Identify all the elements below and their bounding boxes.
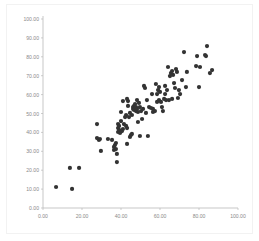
- data-point: [204, 54, 208, 58]
- data-point: [160, 105, 164, 109]
- scatter-plot-screenshot: 0.0010.0020.0030.0040.0050.0060.0070.008…: [0, 0, 259, 241]
- data-point: [126, 104, 130, 108]
- data-point: [170, 97, 174, 101]
- data-point: [140, 117, 144, 121]
- x-tick-label: 40.00: [115, 213, 128, 219]
- data-point: [158, 90, 162, 94]
- y-tick-label: 100.00: [23, 16, 39, 22]
- data-point: [125, 97, 129, 101]
- x-tick-label: 60.00: [154, 213, 167, 219]
- data-point: [143, 86, 147, 90]
- data-point: [125, 142, 129, 146]
- data-point: [161, 109, 165, 113]
- data-point: [157, 85, 161, 89]
- data-point: [173, 86, 177, 90]
- data-point: [99, 149, 103, 153]
- data-point: [121, 127, 125, 131]
- y-tick-label: 90.00: [26, 35, 39, 41]
- data-point: [166, 65, 170, 69]
- data-point: [165, 88, 169, 92]
- data-point: [163, 92, 167, 96]
- data-point: [194, 64, 198, 68]
- data-point: [130, 132, 134, 136]
- data-point: [141, 107, 145, 111]
- data-point: [177, 88, 181, 92]
- data-point: [115, 152, 119, 156]
- data-point: [137, 101, 141, 105]
- data-point: [176, 96, 180, 100]
- data-point: [106, 137, 110, 141]
- y-tick-label: 70.00: [26, 73, 39, 79]
- data-point: [146, 134, 150, 138]
- y-tick-label: 60.00: [26, 92, 39, 98]
- data-point: [98, 137, 102, 141]
- data-point: [210, 68, 214, 72]
- data-point: [159, 100, 163, 104]
- x-tick-label: 0.00: [38, 213, 48, 219]
- data-point: [77, 166, 81, 170]
- data-point: [70, 187, 74, 191]
- data-point: [121, 99, 125, 103]
- data-point: [115, 160, 119, 164]
- data-point: [114, 141, 118, 145]
- data-point: [95, 122, 99, 126]
- data-point: [184, 85, 188, 89]
- y-tick-label: 80.00: [26, 54, 39, 60]
- data-point: [119, 119, 123, 123]
- y-tick-label: 0.00: [29, 205, 39, 211]
- x-tick-label: 20.00: [76, 213, 89, 219]
- y-tick-label: 30.00: [26, 148, 39, 154]
- data-point: [195, 54, 199, 58]
- data-point: [172, 81, 176, 85]
- y-axis-tick-labels: 0.0010.0020.0030.0040.0050.0060.0070.008…: [23, 16, 43, 211]
- y-tick-label: 20.00: [26, 167, 39, 173]
- y-tick-label: 50.00: [26, 111, 39, 117]
- x-tick-label: 100.00: [230, 213, 246, 219]
- data-point: [171, 73, 175, 77]
- data-point: [144, 111, 148, 115]
- x-axis-tick-labels: 0.0020.0040.0060.0080.00100.00: [38, 208, 246, 219]
- data-point: [170, 69, 174, 73]
- data-point: [145, 98, 149, 102]
- plot-area: 0.0010.0020.0030.0040.0050.0060.0070.008…: [0, 0, 259, 241]
- scatter-chart-svg: 0.0010.0020.0030.0040.0050.0060.0070.008…: [0, 0, 259, 241]
- data-point: [185, 70, 189, 74]
- data-point: [197, 85, 201, 89]
- data-point: [180, 78, 184, 82]
- data-point: [163, 84, 167, 88]
- data-point: [125, 126, 129, 130]
- data-point: [114, 147, 118, 151]
- y-tick-label: 10.00: [26, 186, 39, 192]
- data-point: [68, 166, 72, 170]
- data-point: [198, 65, 202, 69]
- data-point: [119, 110, 123, 114]
- data-point: [153, 109, 157, 113]
- data-point: [175, 70, 179, 74]
- data-point: [117, 124, 121, 128]
- y-tick-label: 40.00: [26, 129, 39, 135]
- data-point: [205, 44, 209, 48]
- x-tick-label: 80.00: [193, 213, 206, 219]
- data-point: [154, 82, 158, 86]
- data-point: [138, 134, 142, 138]
- data-points-group: [54, 44, 214, 191]
- data-point: [54, 185, 58, 189]
- data-point: [130, 113, 134, 117]
- data-point: [182, 50, 186, 54]
- data-point: [178, 92, 182, 96]
- data-point: [150, 92, 154, 96]
- data-point: [136, 120, 140, 124]
- data-point: [110, 138, 114, 142]
